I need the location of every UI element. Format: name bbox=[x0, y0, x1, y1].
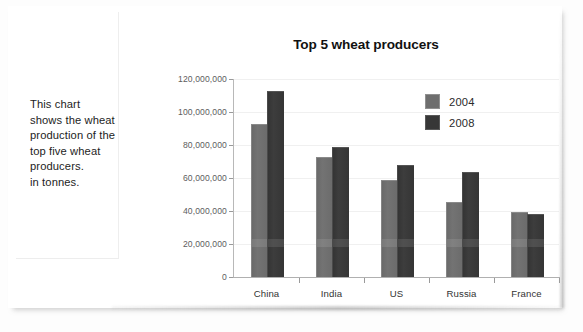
bar-india-2008 bbox=[332, 147, 349, 277]
x-axis-label-russia: Russia bbox=[447, 288, 477, 299]
y-axis-tick-label: 60,000,000 bbox=[183, 173, 227, 183]
card-shadow-right bbox=[560, 14, 564, 308]
x-axis-label-china: China bbox=[254, 288, 280, 299]
legend-item-2004: 2004 bbox=[425, 91, 475, 112]
x-axis-label-france: France bbox=[511, 288, 541, 299]
legend-swatch-2008 bbox=[425, 115, 440, 130]
panel-divider-horizontal bbox=[16, 258, 119, 259]
y-axis-tick-label: 40,000,000 bbox=[183, 206, 227, 216]
x-axis-tick bbox=[299, 278, 300, 283]
gridline bbox=[234, 79, 559, 80]
bar-us-2004 bbox=[381, 180, 398, 277]
bar-scan-band bbox=[333, 239, 349, 247]
card-shadow-bottom bbox=[112, 306, 564, 310]
legend-item-2008: 2008 bbox=[425, 112, 475, 133]
chart-title: Top 5 wheat producers bbox=[168, 37, 564, 52]
legend-label-2008: 2008 bbox=[449, 117, 475, 129]
bar-scan-band bbox=[382, 239, 398, 247]
bar-scan-band bbox=[252, 239, 268, 247]
bar-france-2004 bbox=[511, 212, 528, 277]
bar-france-2008 bbox=[527, 214, 544, 277]
y-axis-labels: 020,000,00040,000,00060,000,00080,000,00… bbox=[168, 79, 234, 277]
y-axis-tick-label: 120,000,000 bbox=[178, 74, 227, 84]
bar-scan-band bbox=[317, 239, 333, 247]
x-axis-label-india: India bbox=[321, 288, 342, 299]
x-axis-tick bbox=[364, 278, 365, 283]
x-axis-line bbox=[233, 277, 560, 278]
chart-legend: 20042008 bbox=[425, 91, 475, 133]
legend-swatch-2004 bbox=[425, 94, 440, 109]
bar-russia-2004 bbox=[446, 202, 463, 277]
y-axis-tick-label: 0 bbox=[222, 272, 227, 282]
bar-china-2004 bbox=[251, 124, 268, 277]
bar-china-2008 bbox=[267, 91, 284, 277]
screenshot-root: This chart shows the wheat production of… bbox=[0, 0, 583, 332]
chart-card: This chart shows the wheat production of… bbox=[8, 6, 562, 308]
bar-scan-band bbox=[463, 239, 479, 247]
chart-caption: This chart shows the wheat production of… bbox=[30, 97, 126, 191]
bar-chart: Top 5 wheat producers 020,000,00040,000,… bbox=[168, 30, 564, 312]
x-axis-tick bbox=[429, 278, 430, 283]
plot-area: 020,000,00040,000,00060,000,00080,000,00… bbox=[234, 79, 559, 277]
bar-russia-2008 bbox=[462, 172, 479, 277]
legend-label-2004: 2004 bbox=[449, 96, 475, 108]
y-axis-tick-label: 100,000,000 bbox=[178, 107, 227, 117]
bar-scan-band bbox=[512, 239, 528, 247]
y-axis-tick-label: 20,000,000 bbox=[183, 239, 227, 249]
bar-scan-band bbox=[398, 239, 414, 247]
bar-india-2004 bbox=[316, 157, 333, 277]
y-axis-line bbox=[233, 79, 234, 278]
x-axis-label-us: US bbox=[390, 288, 404, 299]
y-axis-tick-label: 80,000,000 bbox=[183, 140, 227, 150]
bar-scan-band bbox=[268, 239, 284, 247]
bar-us-2008 bbox=[397, 165, 414, 277]
bar-scan-band bbox=[528, 239, 544, 247]
bar-scan-band bbox=[447, 239, 463, 247]
x-axis-tick bbox=[494, 278, 495, 283]
